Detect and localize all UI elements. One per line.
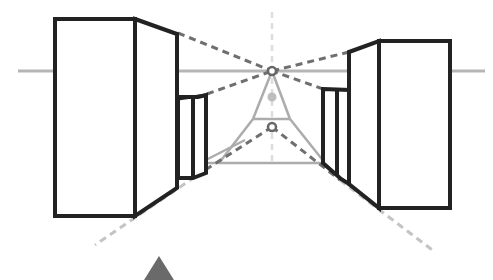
upper-vanishing-point — [268, 67, 276, 75]
left-small-building — [178, 95, 206, 178]
right-large-building — [349, 41, 450, 208]
upper-guides — [178, 33, 349, 94]
lower-vanishing-point — [268, 123, 276, 131]
viewer-triangle-icon — [144, 256, 174, 280]
middle-vanishing-point — [269, 94, 276, 101]
perspective-diagram — [0, 0, 493, 280]
right-small-building — [323, 89, 349, 184]
left-large-building — [55, 19, 177, 216]
diagram-canvas — [0, 0, 493, 280]
convergence-triangle — [200, 71, 339, 163]
